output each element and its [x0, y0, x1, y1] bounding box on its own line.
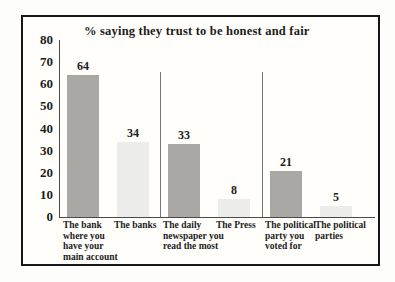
group-divider-line: [160, 72, 161, 217]
bar-value-label: 5: [320, 190, 352, 205]
bar: [270, 171, 302, 217]
y-tick-label: 60: [26, 76, 53, 92]
y-tick-label: 40: [26, 121, 53, 137]
bar-value-label: 8: [218, 183, 250, 198]
x-axis-line: [59, 217, 375, 218]
y-tick-label: 80: [26, 32, 53, 48]
bar: [320, 206, 352, 217]
category-label: The political parties: [315, 220, 375, 241]
bar: [168, 144, 200, 217]
y-tick-label: 30: [26, 143, 53, 159]
bar-value-label: 34: [117, 126, 149, 141]
group-divider-line: [262, 72, 263, 217]
bar: [117, 142, 149, 217]
y-tick-label: 10: [26, 187, 53, 203]
y-tick-label: 20: [26, 165, 53, 181]
bar: [67, 75, 99, 217]
y-axis-line: [59, 40, 60, 218]
y-tick-label: 0: [26, 209, 53, 225]
plot-area: 0102030405060708064The bank where you ha…: [23, 17, 378, 264]
y-tick-label: 70: [26, 54, 53, 70]
category-label: The Press: [216, 220, 266, 231]
bar: [218, 199, 250, 217]
chart-frame: % saying they trust to be honest and fai…: [21, 15, 380, 266]
bar-value-label: 33: [168, 128, 200, 143]
bar-value-label: 64: [67, 59, 99, 74]
y-tick-label: 50: [26, 98, 53, 114]
bar-value-label: 21: [270, 155, 302, 170]
